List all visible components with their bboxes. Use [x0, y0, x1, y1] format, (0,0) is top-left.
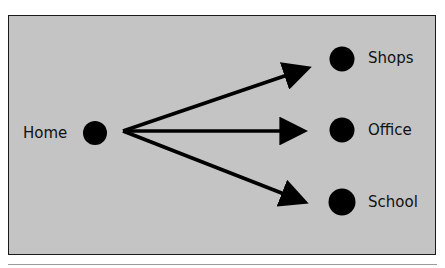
- shops-node: [330, 47, 355, 72]
- separator-line: [8, 264, 437, 265]
- arrow-home-to-shops: [123, 69, 305, 131]
- home-node: [83, 121, 107, 145]
- school-label: School: [368, 193, 418, 211]
- school-node: [329, 189, 356, 216]
- arrow-home-to-school: [123, 131, 302, 201]
- office-label: Office: [368, 121, 412, 139]
- shops-label: Shops: [368, 49, 414, 67]
- office-node: [330, 118, 355, 143]
- home-label: Home: [23, 124, 67, 142]
